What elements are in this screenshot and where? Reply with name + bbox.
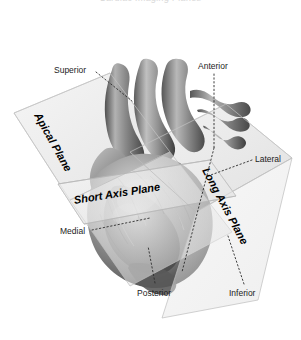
label-posterior: Posterior xyxy=(137,289,171,298)
label-medial: Medial xyxy=(60,227,85,236)
label-lateral: Lateral xyxy=(255,155,281,164)
label-inferior: Inferior xyxy=(229,289,255,298)
cardiac-planes-figure: Cardiac Imaging Planes xyxy=(0,0,301,340)
label-anterior: Anterior xyxy=(198,62,228,71)
label-superior: Superior xyxy=(54,66,86,75)
